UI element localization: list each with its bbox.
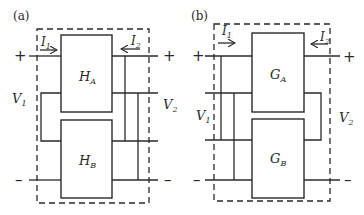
panel-b-tag: (b) — [191, 9, 208, 23]
input-series-link — [41, 93, 61, 141]
voltage-v2-label: V2 — [163, 97, 177, 114]
two-port-interconnection-diagram: (a) HA HB I1 I2 V1 V2 + + – – — [0, 0, 364, 215]
port1-minus-sign: – — [193, 171, 201, 189]
current-i1-label: I1 — [221, 24, 232, 40]
port1-plus-sign: + — [192, 47, 205, 65]
voltage-v1-label: V1 — [196, 108, 210, 125]
panel-b: (b) GA GB I1 I2 V1 V2 + + – – — [191, 9, 356, 201]
port2-plus-sign: + — [343, 48, 356, 66]
panel-a: (a) HA HB I1 I2 V1 V2 + + – – — [12, 9, 177, 203]
port1-minus-sign: – — [15, 171, 23, 189]
panel-a-tag: (a) — [13, 9, 30, 23]
current-i1-label: I1 — [40, 35, 51, 51]
port2-minus-sign: – — [164, 171, 172, 189]
current-i2-label: I2 — [130, 34, 141, 50]
port1-plus-sign: + — [14, 47, 27, 65]
voltage-v1-label: V1 — [12, 91, 26, 108]
output-series-link — [304, 93, 321, 140]
port2-plus-sign: + — [163, 47, 176, 65]
port2-minus-sign: – — [344, 171, 352, 189]
voltage-v2-label: V2 — [339, 110, 353, 127]
